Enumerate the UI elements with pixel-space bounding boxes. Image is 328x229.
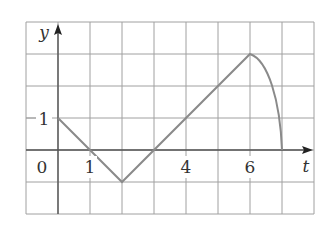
- y-tick-label-1: 1: [39, 109, 50, 129]
- grid: [26, 22, 314, 214]
- y-axis-label: y: [38, 22, 49, 42]
- x-tick-label-6: 6: [245, 157, 256, 177]
- t-axis-label: t: [303, 156, 310, 176]
- labels: 1 0 1 4 6 t y: [26, 22, 312, 178]
- graph-figure: 1 0 1 4 6 t y: [0, 0, 328, 229]
- x-tick-label-1: 1: [85, 157, 96, 177]
- x-tick-label-4: 4: [181, 157, 192, 177]
- origin-label: 0: [37, 157, 48, 177]
- axes: [26, 24, 313, 214]
